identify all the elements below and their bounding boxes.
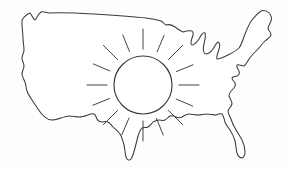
- us-map-with-sun-illustration: [0, 0, 286, 169]
- illustration-canvas: [0, 0, 286, 169]
- us-map-outline: [22, 11, 271, 160]
